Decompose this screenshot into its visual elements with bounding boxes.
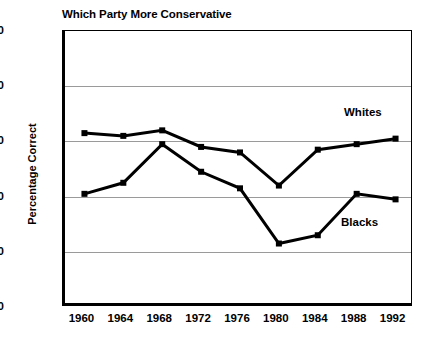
data-point-marker [354, 141, 360, 147]
data-point-marker [198, 169, 204, 175]
series-line [84, 130, 395, 185]
y-axis-tick-label: 80 [0, 79, 4, 91]
chart-figure: Which Party More Conservative Percentage… [0, 0, 428, 342]
data-point-marker [81, 130, 87, 136]
x-axis-tick-label: 1976 [224, 312, 250, 324]
data-point-marker [276, 183, 282, 189]
data-point-marker [198, 144, 204, 150]
x-axis-tick-label: 1988 [341, 312, 367, 324]
y-axis-tick-label: 40 [0, 190, 4, 202]
x-axis-tick-labels: 196019641968197219761980198419881992 [62, 312, 412, 332]
x-axis-tick-label: 1992 [380, 312, 406, 324]
data-point-marker [120, 133, 126, 139]
data-point-marker [393, 136, 399, 142]
series-label-blacks: Blacks [341, 216, 378, 228]
y-axis-tick-label: 0 [0, 300, 4, 312]
x-axis-tick-label: 1964 [108, 312, 134, 324]
data-point-marker [237, 185, 243, 191]
data-point-marker [315, 232, 321, 238]
plot-area [62, 30, 412, 306]
y-axis-tick-label: 100 [0, 24, 4, 36]
series-whites [81, 127, 398, 188]
data-point-marker [81, 191, 87, 197]
x-axis-tick-label: 1984 [302, 312, 328, 324]
chart-title: Which Party More Conservative [62, 8, 232, 20]
x-axis-tick-label: 1968 [146, 312, 172, 324]
y-axis-tick-label: 20 [0, 245, 4, 257]
data-point-marker [159, 127, 165, 133]
data-point-marker [393, 196, 399, 202]
y-axis-tick-label: 60 [0, 134, 4, 146]
data-point-marker [315, 147, 321, 153]
data-point-marker [354, 191, 360, 197]
data-point-marker [120, 180, 126, 186]
data-point-marker [276, 241, 282, 247]
x-axis-tick-label: 1960 [69, 312, 95, 324]
y-axis-title: Percentage Correct [26, 94, 38, 254]
series-layer [65, 31, 415, 307]
series-line [84, 144, 395, 243]
x-axis-tick-label: 1980 [263, 312, 289, 324]
data-point-marker [237, 149, 243, 155]
data-point-marker [159, 141, 165, 147]
x-axis-tick-label: 1972 [185, 312, 211, 324]
series-label-whites: Whites [344, 106, 382, 118]
series-blacks [81, 141, 398, 246]
